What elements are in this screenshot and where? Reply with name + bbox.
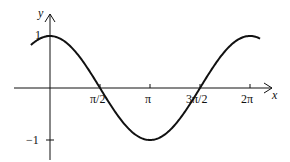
- x-tick-2pi: 2π: [241, 92, 253, 107]
- y-tick-1: 1: [35, 28, 41, 43]
- x-tick-pi: π: [145, 92, 151, 107]
- x-tick-pi-over-2: π/2: [90, 92, 105, 107]
- x-tick-3pi-over-2: 3π/2: [186, 92, 207, 107]
- cosine-plot: [0, 0, 290, 162]
- y-axis-label: y: [38, 6, 43, 21]
- x-axis-label: x: [272, 88, 277, 103]
- y-tick-neg1: −1: [26, 133, 39, 148]
